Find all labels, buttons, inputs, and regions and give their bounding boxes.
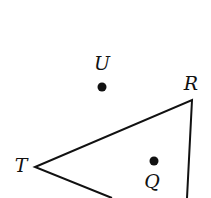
point-q-dot [150,157,159,166]
vertex-r-label: R [184,74,198,93]
point-u-dot [98,83,107,92]
geometry-diagram: U R T Q [0,0,211,198]
point-u-label: U [94,54,110,73]
triangle-figure [0,0,211,198]
vertex-t-label: T [15,156,28,175]
point-q-label: Q [144,172,160,191]
triangle-edges [35,100,192,198]
